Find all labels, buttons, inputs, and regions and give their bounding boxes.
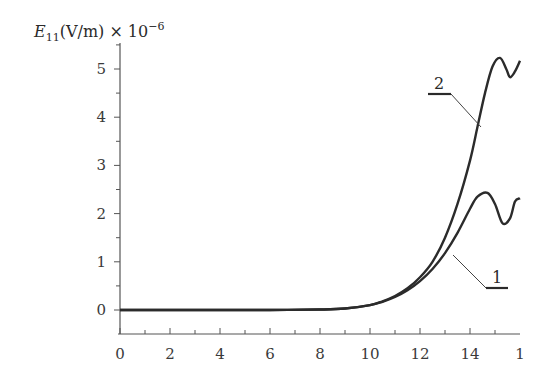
- series-2-label: 2: [428, 74, 481, 127]
- y-axis-subscript: 11: [46, 31, 60, 44]
- x-tick-label: 8: [315, 345, 325, 363]
- y-tick-label: 4: [96, 108, 106, 126]
- series-1-label-text: 1: [492, 268, 502, 287]
- x-tick-label: 4: [215, 345, 225, 363]
- y-tick-label: 5: [96, 60, 106, 78]
- x-tick-label: 6: [265, 345, 275, 363]
- x-tick-label: 2: [165, 345, 175, 363]
- x-ticks: 024681012141: [115, 328, 525, 363]
- y-axis-unit: (V/m) × 10: [60, 22, 149, 41]
- y-axis-exponent: −6: [148, 20, 164, 33]
- y-axis-symbol: E: [33, 22, 46, 41]
- x-tick-label: 10: [360, 345, 379, 363]
- series-1-label: 1: [453, 255, 508, 288]
- x-tick-label: 12: [410, 345, 429, 363]
- y-ticks: 012345: [96, 45, 120, 319]
- y-tick-label: 1: [96, 253, 106, 271]
- series-2-line: [120, 58, 520, 310]
- y-tick-label: 0: [96, 301, 106, 319]
- y-tick-label: 2: [96, 205, 106, 223]
- x-tick-label: 1: [515, 345, 525, 363]
- series-2-label-text: 2: [434, 74, 444, 93]
- line-chart: E11(V/m) × 10−6 012345 024681012141 2 1: [0, 0, 552, 383]
- series-1-line: [120, 193, 520, 310]
- series-layer: [120, 58, 520, 310]
- x-tick-label: 14: [460, 345, 479, 363]
- y-tick-label: 3: [96, 156, 106, 174]
- y-axis-title: E11(V/m) × 10−6: [33, 20, 164, 44]
- x-tick-label: 0: [115, 345, 125, 363]
